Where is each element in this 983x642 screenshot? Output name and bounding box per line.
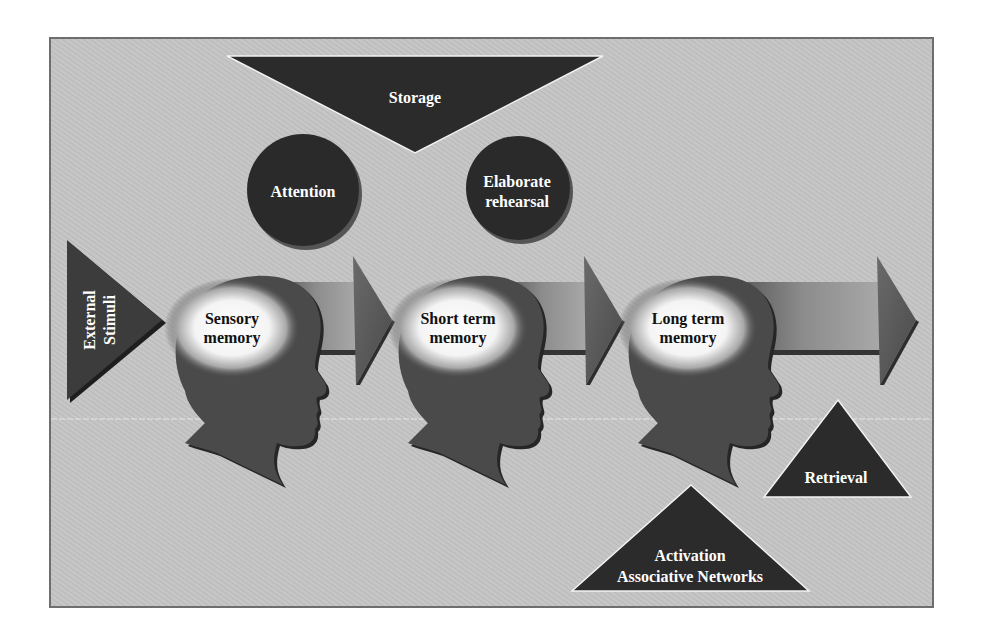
storage-label: Storage: [389, 89, 441, 107]
elaborate-rehearsal-line2: rehearsal: [485, 193, 549, 210]
elaborate-rehearsal-line1: Elaborate: [483, 173, 551, 190]
short-term-line1: Short term: [420, 310, 496, 327]
activation-line1: Activation: [654, 547, 725, 564]
external-stimuli-line2: Stimuli: [101, 295, 118, 345]
long-term-line1: Long term: [652, 310, 725, 328]
sensory-line2: memory: [204, 329, 261, 347]
sensory-glow: [164, 278, 300, 378]
long-term-line2: memory: [660, 329, 717, 347]
activation-line2: Associative Networks: [617, 568, 763, 585]
short-term-glow: [388, 278, 528, 378]
external-stimuli-line1: External: [81, 290, 98, 350]
short-term-line2: memory: [430, 329, 487, 347]
attention-label: Attention: [271, 183, 336, 200]
long-term-glow: [618, 278, 758, 378]
memory-model-diagram: Storage Attention Elaborate rehearsal Ex…: [0, 0, 983, 642]
retrieval-label: Retrieval: [804, 469, 868, 486]
sensory-line1: Sensory: [205, 310, 259, 328]
